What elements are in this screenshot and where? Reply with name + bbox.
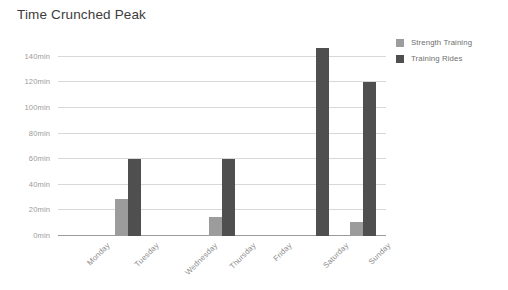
bar[interactable] <box>115 199 128 236</box>
legend-swatch-icon <box>396 39 404 47</box>
bar-pair <box>152 44 199 236</box>
bar-group <box>58 44 105 236</box>
bar-pair <box>339 44 386 236</box>
y-axis-tick-label: 40min <box>29 179 50 188</box>
y-axis-tick-label: 100min <box>24 103 50 112</box>
legend-label: Strength Training <box>411 38 472 47</box>
bar-pair <box>292 44 339 236</box>
chart-title: Time Crunched Peak <box>17 7 146 22</box>
x-axis-tick-label: Friday <box>271 241 293 263</box>
legend-label: Training Rides <box>411 54 462 63</box>
plot-area: 0min20min40min60min80min100min120min140m… <box>58 44 386 236</box>
bar-group <box>152 44 199 236</box>
chart-legend: Strength TrainingTraining Rides <box>396 36 472 68</box>
bars-layer <box>58 44 386 236</box>
legend-item[interactable]: Training Rides <box>396 52 472 65</box>
legend-item[interactable]: Strength Training <box>396 36 472 49</box>
x-label-slot: Wednesday <box>152 238 199 288</box>
x-label-slot: Tuesday <box>105 238 152 288</box>
y-axis-tick-label: 0min <box>33 231 50 240</box>
bar-group <box>339 44 386 236</box>
x-axis-labels: MondayTuesdayWednesdayThursdayFridaySatu… <box>58 238 386 288</box>
x-label-slot: Sunday <box>339 238 386 288</box>
y-axis-tick-label: 120min <box>24 77 50 86</box>
bar-group <box>199 44 246 236</box>
bar-group <box>105 44 152 236</box>
x-label-slot: Thursday <box>199 238 246 288</box>
bar-group <box>292 44 339 236</box>
legend-swatch-icon <box>396 55 404 63</box>
bar[interactable] <box>128 159 141 236</box>
bar[interactable] <box>363 82 376 236</box>
y-axis-tick-label: 80min <box>29 128 50 137</box>
x-label-slot: Saturday <box>292 238 339 288</box>
x-axis-tick-label: Sunday <box>366 241 391 266</box>
bar-chart: Time Crunched Peak 0min20min40min60min80… <box>0 0 508 290</box>
bar-pair <box>105 44 152 236</box>
bar-pair <box>245 44 292 236</box>
bar-pair <box>199 44 246 236</box>
bar[interactable] <box>350 222 363 236</box>
y-axis-tick-label: 60min <box>29 154 50 163</box>
bar[interactable] <box>222 159 235 236</box>
bar[interactable] <box>209 217 222 236</box>
bar-group <box>245 44 292 236</box>
bar[interactable] <box>316 48 329 236</box>
bar-pair <box>58 44 105 236</box>
x-label-slot: Monday <box>58 238 105 288</box>
x-label-slot: Friday <box>245 238 292 288</box>
y-axis-tick-label: 140min <box>24 51 50 60</box>
y-axis-tick-label: 20min <box>29 205 50 214</box>
